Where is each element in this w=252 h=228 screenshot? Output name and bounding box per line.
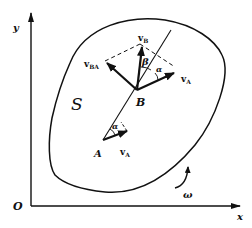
vB-arrow — [137, 47, 142, 90]
curved-arrow-icon — [175, 167, 188, 188]
point-A-group: α A vA — [93, 121, 130, 159]
point-B-label: B — [135, 96, 145, 109]
body-label: S — [71, 94, 83, 114]
alpha-label-A: α — [112, 121, 118, 131]
vA-at-A-sub: A — [124, 151, 130, 158]
omega-label: ω — [183, 189, 193, 200]
origin-label: O — [13, 200, 23, 213]
vA-at-B-label: vA — [180, 74, 191, 85]
vA-at-B-sub: A — [185, 78, 191, 85]
y-axis-label: y — [12, 22, 20, 33]
dashed-perp-A — [121, 122, 127, 131]
beta-label-B: β — [141, 56, 149, 67]
vB-label: vB — [137, 33, 148, 44]
vBA-label: vBA — [83, 59, 99, 70]
x-axis-label: x — [236, 211, 244, 222]
point-B-group: β α B vB vBA vA — [83, 33, 191, 109]
dashed-vBA-to-vB — [105, 44, 140, 61]
vA-at-A-arrow — [103, 131, 127, 140]
point-A-label: A — [93, 148, 102, 159]
rotation-indicator: ω — [175, 167, 193, 200]
vA-at-A-label: vA — [119, 147, 130, 158]
coordinate-axes — [31, 13, 240, 206]
vBA-sub: BA — [89, 63, 99, 70]
diagram-canvas: O y x S α A vA β α B vB v — [0, 0, 252, 228]
vBA-arrow — [107, 63, 137, 90]
alpha-label-B: α — [156, 64, 162, 74]
alpha-arc-B — [155, 73, 158, 80]
vB-sub: B — [143, 37, 148, 44]
